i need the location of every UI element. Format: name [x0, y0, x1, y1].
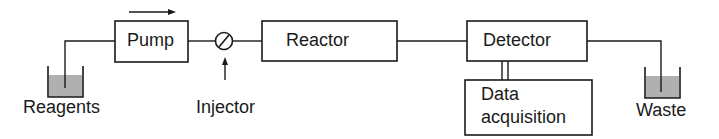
reactor-label: Reactor — [286, 30, 349, 51]
waste-label: Waste — [636, 100, 686, 121]
injector-valve-icon — [216, 33, 233, 50]
data-acquisition-label-line2: acquisition — [481, 107, 566, 128]
pump-label: Pump — [127, 30, 174, 51]
signal-connector — [502, 61, 508, 80]
injector-label: Injector — [196, 97, 255, 118]
reagents-label: Reagents — [23, 97, 100, 118]
flow-direction-arrow-icon — [129, 9, 176, 15]
injection-arrow-icon — [222, 57, 228, 80]
detector-label: Detector — [483, 30, 551, 51]
flow-diagram — [0, 0, 719, 139]
data-acquisition-label-line1: Data — [481, 84, 519, 105]
waste-beaker-icon — [645, 67, 680, 98]
